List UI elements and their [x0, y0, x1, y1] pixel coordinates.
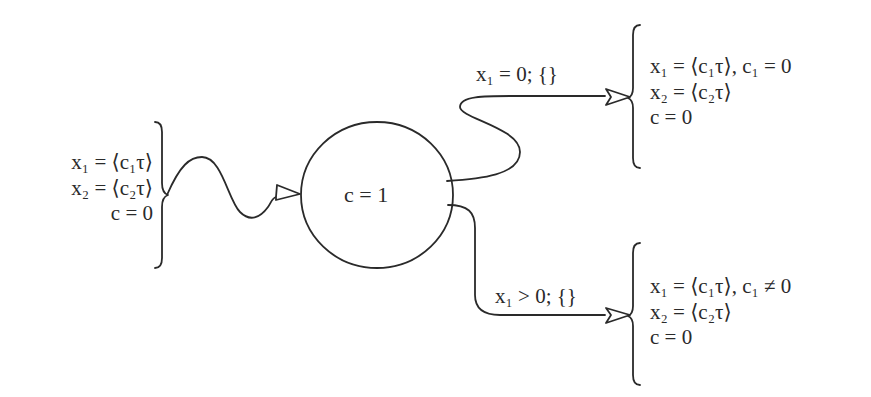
target-bottom-line-x1: x₁ = ⟨c₁τ⟩, c₁ ≠ 0 [650, 274, 791, 300]
initial-state-line-x2: x₂ = ⟨c₂τ⟩ [71, 176, 153, 202]
initial-state-conditions: x₁ = ⟨c₁τ⟩ x₂ = ⟨c₂τ⟩ c = 0 [71, 150, 153, 227]
target-top-brace [628, 25, 640, 168]
target-bottom-brace [628, 243, 640, 385]
transition-top-curve [447, 96, 605, 181]
transition-bottom-label: x₁ > 0; {} [495, 284, 577, 309]
transition-bottom-arrowhead [606, 308, 630, 323]
initial-state-brace [155, 122, 168, 268]
target-top-line-x2: x₂ = ⟨c₂τ⟩ [650, 80, 792, 106]
initial-transition-arrowhead [276, 185, 300, 200]
target-bottom-line-c: c = 0 [650, 325, 791, 351]
target-bottom-conditions: x₁ = ⟨c₁τ⟩, c₁ ≠ 0 x₂ = ⟨c₂τ⟩ c = 0 [650, 274, 791, 351]
transition-top-arrowhead [606, 89, 630, 105]
initial-state-line-x1: x₁ = ⟨c₁τ⟩ [71, 150, 153, 176]
state-node-label: c = 1 [344, 182, 388, 208]
transition-top-label: x₁ = 0; {} [476, 62, 558, 87]
target-bottom-line-x2: x₂ = ⟨c₂τ⟩ [650, 300, 791, 326]
target-top-line-c: c = 0 [650, 105, 792, 131]
initial-state-line-c: c = 0 [71, 201, 153, 227]
target-top-conditions: x₁ = ⟨c₁τ⟩, c₁ = 0 x₂ = ⟨c₂τ⟩ c = 0 [650, 54, 792, 131]
target-top-line-x1: x₁ = ⟨c₁τ⟩, c₁ = 0 [650, 54, 792, 80]
initial-transition-curve [167, 157, 276, 218]
